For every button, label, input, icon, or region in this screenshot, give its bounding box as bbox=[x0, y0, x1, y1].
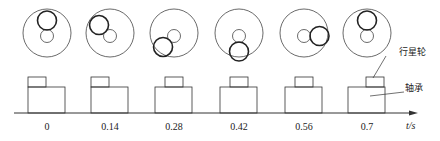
planet-block bbox=[28, 77, 46, 87]
frame: 0.56 bbox=[280, 9, 329, 132]
time-tick-label: 0.28 bbox=[165, 121, 183, 132]
bearing-block bbox=[285, 87, 322, 113]
planet-block bbox=[295, 77, 313, 87]
bearing-block bbox=[155, 87, 192, 113]
time-tick-label: 0.56 bbox=[295, 121, 313, 132]
planetary-gear-diagram: 00.140.280.420.560.7 t/s 行星轮 轴承 bbox=[0, 0, 440, 141]
bearing-block bbox=[220, 87, 257, 113]
planet-block bbox=[91, 77, 109, 87]
ring-gear bbox=[215, 9, 263, 57]
bearing-leader-line bbox=[370, 92, 404, 96]
bearing-block bbox=[28, 87, 65, 113]
frame: 0.7 bbox=[343, 9, 391, 132]
time-axis-arrow-icon bbox=[409, 111, 418, 116]
time-tick-label: 0 bbox=[45, 121, 50, 132]
planet-gear bbox=[38, 11, 57, 30]
ring-gear bbox=[343, 9, 391, 57]
frame: 0 bbox=[23, 9, 71, 132]
planet-gear bbox=[154, 37, 173, 56]
sun-gear bbox=[41, 30, 54, 43]
sun-gear bbox=[298, 30, 311, 43]
planet-gear bbox=[90, 16, 109, 35]
planet-block bbox=[366, 77, 384, 87]
planet-gear-leader-line bbox=[373, 56, 386, 78]
time-tick-label: 0.7 bbox=[361, 121, 374, 132]
sun-gear bbox=[233, 30, 246, 43]
time-tick-label: 0.14 bbox=[101, 121, 119, 132]
bearing-callout: 轴承 bbox=[405, 82, 423, 93]
bearing-block bbox=[91, 87, 128, 113]
planet-block bbox=[230, 77, 248, 87]
frame: 0.42 bbox=[215, 9, 263, 132]
sun-gear bbox=[361, 30, 374, 43]
planet-gear bbox=[358, 11, 377, 30]
axis-label: t/s bbox=[406, 120, 416, 131]
ring-gear bbox=[23, 9, 71, 57]
ring-gear bbox=[150, 9, 198, 57]
ring-gear bbox=[280, 9, 328, 57]
frame: 0.14 bbox=[86, 9, 134, 132]
time-tick-label: 0.42 bbox=[230, 121, 248, 132]
bearing-block bbox=[348, 87, 385, 113]
planet-gear bbox=[310, 27, 329, 46]
frame: 0.28 bbox=[150, 9, 198, 132]
planet-gear bbox=[230, 42, 249, 61]
planet-block bbox=[165, 77, 183, 87]
planet-gear-callout: 行星轮 bbox=[399, 46, 426, 57]
